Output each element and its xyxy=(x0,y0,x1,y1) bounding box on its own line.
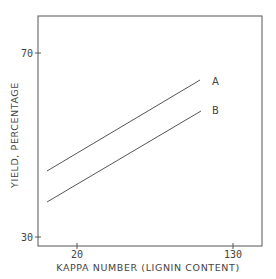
series-a-label: A xyxy=(212,76,219,87)
chart: 70 30 20 130 KAPPA NUMBER (LIGNIN CONTEN… xyxy=(0,0,276,279)
x-tick-label-20: 20 xyxy=(71,249,83,260)
plot-frame xyxy=(38,16,262,246)
x-axis-title: KAPPA NUMBER (LIGNIN CONTENT) xyxy=(56,262,240,273)
x-tick-label-130: 130 xyxy=(224,249,242,260)
y-tick-label-70: 70 xyxy=(21,48,33,59)
series-b-label: B xyxy=(212,105,219,116)
y-axis-title: YIELD, PERCENTAGE xyxy=(9,82,20,189)
y-tick-label-30: 30 xyxy=(21,232,33,243)
